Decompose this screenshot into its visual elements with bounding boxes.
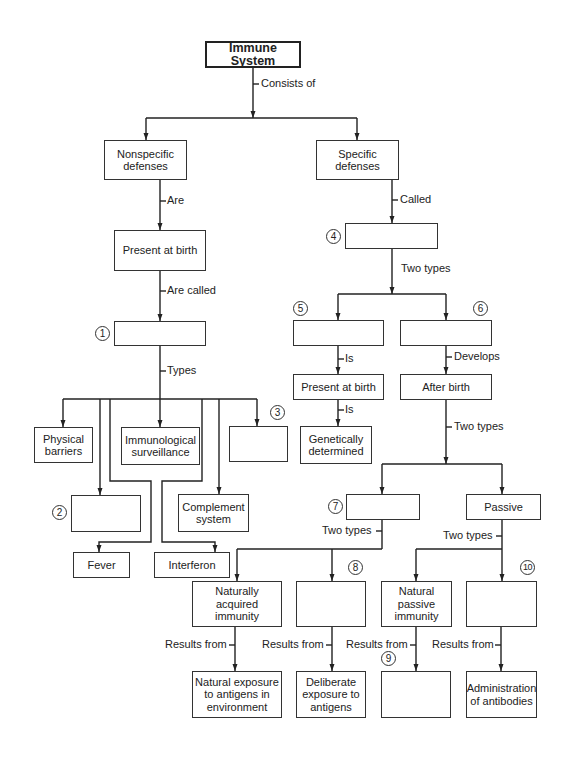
node-present-at-birth-right: Present at birth — [293, 374, 384, 400]
number-badge-10: 10 — [520, 560, 535, 575]
node-complement-system: Complement system — [178, 494, 249, 532]
node-natural-exposure: Natural exposure to antigens in environm… — [192, 671, 282, 718]
blank-box-8[interactable] — [296, 581, 366, 627]
number-badge-9: 9 — [381, 651, 396, 666]
edge-label-two-types-4: Two types — [401, 262, 451, 274]
blank-box-4[interactable] — [345, 223, 438, 249]
number-badge-4: 4 — [326, 229, 341, 244]
edge-label-two-types-passive: Two types — [443, 529, 493, 541]
node-immune-system: Immune System — [205, 41, 301, 68]
number-badge-6: 6 — [473, 301, 488, 316]
edge-label-are: Are — [167, 194, 184, 206]
node-specific-defenses: Specific defenses — [316, 140, 399, 180]
edge-label-types: Types — [167, 364, 196, 376]
node-deliberate-exposure: Deliberate exposure to antigens — [296, 671, 366, 718]
edge-label-results-from-4: Results from — [432, 638, 494, 650]
concept-map: Immune System Nonspecific defenses Speci… — [0, 0, 575, 763]
node-interferon: Interferon — [154, 552, 230, 578]
node-passive: Passive — [466, 494, 541, 520]
node-immunological-surveillance: Immunological surveillance — [121, 427, 200, 465]
number-badge-5: 5 — [293, 301, 308, 316]
node-present-at-birth-left: Present at birth — [114, 230, 206, 271]
number-badge-7: 7 — [328, 499, 343, 514]
blank-box-9[interactable] — [381, 671, 451, 718]
edge-label-results-from-3: Results from — [346, 638, 408, 650]
number-badge-1: 1 — [95, 326, 110, 341]
node-naturally-acquired-immunity: Naturally acquired immunity — [192, 581, 282, 627]
edge-label-results-from-2: Results from — [262, 638, 324, 650]
edge-label-called: Called — [400, 193, 431, 205]
edge-label-are-called: Are called — [167, 284, 216, 296]
number-badge-2: 2 — [52, 505, 67, 520]
blank-box-6[interactable] — [400, 320, 492, 346]
blank-box-10[interactable] — [466, 581, 537, 627]
node-after-birth: After birth — [400, 374, 492, 400]
edge-label-two-types-after: Two types — [454, 420, 504, 432]
edge-label-is-birth: Is — [345, 403, 354, 415]
node-nonspecific-defenses: Nonspecific defenses — [104, 140, 187, 180]
blank-box-3[interactable] — [229, 426, 288, 462]
number-badge-3: 3 — [270, 405, 285, 420]
node-natural-passive-immunity: Natural passive immunity — [381, 581, 452, 627]
edge-label-develops: Develops — [454, 350, 500, 362]
node-administration-of-antibodies: Administration of antibodies — [466, 671, 537, 718]
edge-label-consists-of: Consists of — [261, 77, 315, 89]
blank-box-7[interactable] — [346, 494, 420, 520]
edge-label-two-types-7: Two types — [322, 524, 372, 536]
edge-label-results-from-1: Results from — [165, 638, 227, 650]
edge-label-is-5: Is — [345, 352, 354, 364]
node-genetically-determined: Genetically determined — [300, 426, 372, 464]
blank-box-2[interactable] — [71, 495, 141, 532]
number-badge-8: 8 — [348, 560, 363, 575]
node-fever: Fever — [73, 552, 130, 578]
blank-box-5[interactable] — [293, 320, 384, 346]
node-physical-barriers: Physical barriers — [34, 427, 93, 463]
blank-box-1[interactable] — [114, 321, 206, 346]
